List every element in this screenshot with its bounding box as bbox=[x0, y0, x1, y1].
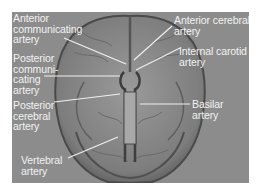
label-internal-carotid-artery: Internal carotid artery bbox=[179, 46, 247, 67]
brain-arteries-figure: Anterior communicating artery Posterior … bbox=[12, 12, 249, 183]
label-vertebral-artery: Vertebral artery bbox=[21, 155, 62, 176]
label-posterior-cerebral-artery: Posterior cerebral artery bbox=[13, 100, 54, 132]
label-basilar-artery: Basilar artery bbox=[192, 99, 223, 120]
label-posterior-communicating-artery: Posterior communi- cating artery bbox=[13, 53, 58, 95]
label-anterior-cerebral-artery: Anterior cerebral artery bbox=[174, 15, 249, 36]
label-anterior-communicating-artery: Anterior communicating artery bbox=[13, 13, 82, 45]
